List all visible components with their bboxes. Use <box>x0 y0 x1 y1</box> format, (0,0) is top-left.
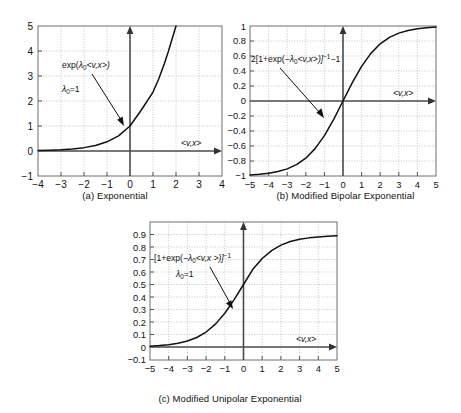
y-tick-a-1: 0 <box>27 146 33 157</box>
y-tick-b-3: −0.4 <box>227 125 246 136</box>
svg-text:λ0=1: λ0=1 <box>61 84 80 95</box>
x-tick-b-2: −3 <box>282 179 293 190</box>
x-tick-labels-a: −4 −3 −2 −1 0 1 2 3 4 <box>32 179 225 190</box>
x-tick-c-5: 0 <box>241 363 246 374</box>
x-tick-c-10: 5 <box>334 363 339 374</box>
caption-panel-c: (c) Modified Unipolar Exponential <box>110 393 350 404</box>
annotation-leader-c <box>210 267 230 303</box>
y-tick-b-5: 0 <box>241 95 246 106</box>
y-tick-a-5: 4 <box>27 46 33 57</box>
x-tick-a-3: −1 <box>101 179 113 190</box>
x-tick-c-2: −3 <box>182 363 193 374</box>
x-tick-c-7: 2 <box>278 363 283 374</box>
svg-text:λ0=1: λ0=1 <box>175 269 194 280</box>
y-tick-b-0: −1 <box>235 170 246 181</box>
x-tick-b-9: 4 <box>415 179 420 190</box>
panel-bipolar-exponential: 2[1+exp(−λ0<v,x>)]−1−1 <v,x> −5 −4 −3 −2… <box>230 0 461 210</box>
y-tick-c-4: 0.3 <box>133 304 146 315</box>
y-tick-c-6: 0.5 <box>133 279 146 290</box>
x-tick-a-5: 1 <box>150 179 156 190</box>
y-tick-c-7: 0.6 <box>133 267 146 278</box>
x-tick-b-5: 0 <box>340 179 345 190</box>
x-tick-labels-c: −5 −4 −3 −2 −1 0 1 2 3 4 5 <box>145 363 340 374</box>
annotation-formula-b: 2[1+exp(−λ0<v,x>)]−1−1 <box>251 53 340 118</box>
y-tick-a-4: 3 <box>27 71 33 82</box>
x-tick-c-8: 3 <box>297 363 302 374</box>
x-tick-b-4: −1 <box>319 179 330 190</box>
chart-bipolar-exponential: 2[1+exp(−λ0<v,x>)]−1−1 <v,x> −5 −4 −3 −2… <box>230 0 461 190</box>
caption-panel-b: (b) Modified Bipolar Exponential <box>230 190 461 201</box>
x-tick-b-1: −4 <box>263 179 274 190</box>
x-tick-b-6: 1 <box>359 179 364 190</box>
y-tick-b-10: 1 <box>241 21 246 32</box>
x-tick-a-7: 3 <box>196 179 202 190</box>
x-tick-c-9: 4 <box>316 363 321 374</box>
svg-text:2[1+exp(−λ0<v,x>)]−1−1: 2[1+exp(−λ0<v,x>)]−1−1 <box>251 53 340 65</box>
y-tick-labels-b: −1 −0.8 −0.6 −0.4 −0.2 0 0.2 0.4 0.6 0.8… <box>227 21 246 181</box>
y-tick-b-2: −0.6 <box>227 140 246 151</box>
y-tick-c-1: 0 <box>141 342 146 353</box>
annot-c-2: <v,x >)] <box>196 253 225 263</box>
annot-b-2: <v,x>)] <box>298 54 324 64</box>
y-tick-b-1: −0.8 <box>227 155 246 166</box>
y-tick-c-8: 0.7 <box>133 254 146 265</box>
y-tick-c-9: 0.8 <box>133 242 146 253</box>
x-tick-a-6: 2 <box>173 179 179 190</box>
axis-label-b: <v,x> <box>393 88 413 98</box>
y-tick-c-2: 0.1 <box>133 329 146 340</box>
chart-unipolar-exponential: [1+exp(−λ0<v,x >)]−1 λ0=1 <v,x> −5 −4 −3… <box>110 205 350 393</box>
y-tick-b-7: 0.4 <box>233 65 246 76</box>
y-tick-c-10: 0.9 <box>133 229 146 240</box>
x-tick-a-1: −3 <box>55 179 67 190</box>
x-tick-labels-b: −5 −4 −3 −2 −1 0 1 2 3 4 5 <box>245 179 439 190</box>
x-tick-a-8: 4 <box>219 179 225 190</box>
panel-unipolar-exponential: [1+exp(−λ0<v,x >)]−1 λ0=1 <v,x> −5 −4 −3… <box>110 205 350 413</box>
annot-a-head: exp( <box>62 60 79 70</box>
annotation-leader-b <box>280 68 320 113</box>
y-tick-b-9: 0.8 <box>233 35 246 46</box>
annot-b-3: −1 <box>330 54 340 64</box>
y-tick-a-3: 2 <box>27 96 33 107</box>
param-value-c: =1 <box>184 269 194 279</box>
svg-text:exp(λ0<v,x>): exp(λ0<v,x>) <box>62 60 110 71</box>
y-tick-a-2: 1 <box>27 121 33 132</box>
axis-label-c: <v,x> <box>296 334 316 344</box>
y-tick-b-4: −0.2 <box>227 110 246 121</box>
annot-c-1: [1+exp(− <box>154 253 188 263</box>
x-tick-a-2: −2 <box>78 179 90 190</box>
y-tick-c-5: 0.4 <box>133 292 146 303</box>
x-tick-a-0: −4 <box>32 179 44 190</box>
x-tick-c-4: −1 <box>219 363 230 374</box>
x-tick-c-3: −2 <box>201 363 212 374</box>
x-tick-b-7: 2 <box>378 179 383 190</box>
x-tick-b-3: −2 <box>300 179 311 190</box>
svg-text:[1+exp(−λ0<v,x >)]−1: [1+exp(−λ0<v,x >)]−1 <box>154 252 231 264</box>
chart-exponential: exp(λ0<v,x>) λ0=1 <v,x> −4 −3 −2 −1 0 1 … <box>0 0 230 190</box>
annotation-arrowhead-a <box>117 116 124 126</box>
caption-panel-a: (a) Exponential <box>0 190 230 201</box>
x-tick-b-10: 5 <box>433 179 438 190</box>
y-tick-b-8: 0.6 <box>233 50 246 61</box>
x-tick-a-4: 0 <box>127 179 133 190</box>
y-tick-labels-c: −0.1 0 0.1 0.2 0.3 0.4 0.5 0.6 0.7 0.8 0… <box>127 229 146 365</box>
annotation-formula-c: [1+exp(−λ0<v,x >)]−1 λ0=1 <box>154 252 233 309</box>
y-tick-a-6: 5 <box>27 21 33 32</box>
param-value-a: =1 <box>70 84 80 94</box>
axis-label-a: <v,x> <box>181 138 201 148</box>
annot-a-tail: <v,x>) <box>87 60 110 70</box>
x-tick-c-6: 1 <box>260 363 265 374</box>
y-tick-labels-a: −1 0 1 2 3 4 5 <box>22 21 34 182</box>
x-tick-b-8: 3 <box>396 179 401 190</box>
x-tick-c-1: −4 <box>163 363 174 374</box>
y-tick-c-3: 0.2 <box>133 317 146 328</box>
annotation-leader-a <box>92 74 121 120</box>
annot-c-sup: −1 <box>224 252 232 259</box>
y-tick-a-0: −1 <box>22 171 34 182</box>
y-tick-c-0: −0.1 <box>127 354 146 365</box>
y-tick-b-6: 0.2 <box>233 80 246 91</box>
panel-exponential: exp(λ0<v,x>) λ0=1 <v,x> −4 −3 −2 −1 0 1 … <box>0 0 230 210</box>
annotation-formula-a: exp(λ0<v,x>) λ0=1 <box>61 60 124 126</box>
x-tick-c-0: −5 <box>145 363 156 374</box>
x-tick-b-0: −5 <box>245 179 256 190</box>
annot-b-1: 2[1+exp(− <box>251 54 290 64</box>
